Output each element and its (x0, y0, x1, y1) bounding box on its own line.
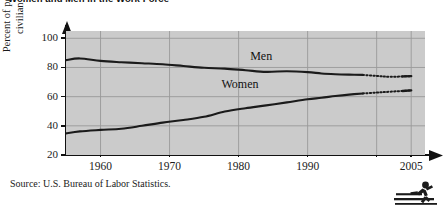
x-tick-label: 1970 (158, 160, 181, 172)
plot-area (66, 31, 425, 155)
source-note: Source: U.S. Bureau of Labor Statistics. (10, 178, 171, 190)
runner-hurdler-icon (392, 180, 440, 208)
x-tick-label: 1960 (89, 160, 112, 172)
figure-title: Women and Men in the Work Force (8, 0, 169, 4)
plot-svg (66, 31, 425, 155)
y-tick-label: 40 (32, 120, 58, 131)
x-tick-label: 1980 (227, 160, 250, 172)
x-tick-label: 1990 (296, 160, 319, 172)
y-tick-label: 80 (32, 61, 58, 72)
y-tick-label: 100 (32, 32, 58, 43)
y-axis-title: Percent of population in the civilian la… (0, 0, 40, 62)
y-axis-title-line-2: civilian labor force (13, 0, 26, 62)
series-label-men: Men (250, 50, 272, 62)
x-tick-label: 2005 (400, 160, 423, 172)
x-axis-arrow (427, 148, 443, 163)
y-axis-title-line-1: Percent of population in the (0, 0, 13, 62)
y-tick-label: 20 (32, 149, 58, 160)
y-tick-label: 60 (32, 91, 58, 102)
series-label-women: Women (222, 78, 259, 90)
